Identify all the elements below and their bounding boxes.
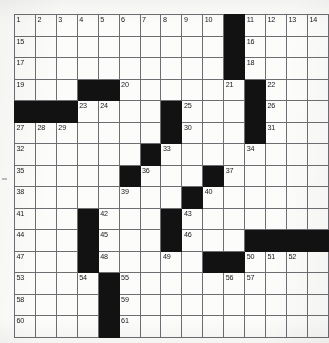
letter-cell[interactable] [119, 36, 140, 58]
letter-cell[interactable] [307, 316, 328, 338]
letter-cell[interactable]: 47 [15, 251, 36, 273]
letter-cell[interactable]: 26 [266, 101, 287, 123]
letter-cell[interactable]: 27 [15, 122, 36, 144]
letter-cell[interactable] [77, 144, 98, 166]
letter-cell[interactable] [286, 101, 307, 123]
letter-cell[interactable] [245, 187, 266, 209]
letter-cell[interactable] [307, 122, 328, 144]
letter-cell[interactable] [119, 144, 140, 166]
letter-cell[interactable]: 32 [15, 144, 36, 166]
letter-cell[interactable]: 52 [286, 251, 307, 273]
letter-cell[interactable] [266, 294, 287, 316]
letter-cell[interactable]: 40 [203, 187, 224, 209]
letter-cell[interactable] [286, 79, 307, 101]
letter-cell[interactable]: 5 [98, 15, 119, 37]
letter-cell[interactable] [203, 144, 224, 166]
letter-cell[interactable] [35, 58, 56, 80]
letter-cell[interactable] [56, 144, 77, 166]
letter-cell[interactable] [224, 294, 245, 316]
letter-cell[interactable]: 50 [245, 251, 266, 273]
letter-cell[interactable] [161, 36, 182, 58]
letter-cell[interactable] [203, 294, 224, 316]
letter-cell[interactable] [161, 79, 182, 101]
letter-cell[interactable] [56, 251, 77, 273]
letter-cell[interactable] [307, 165, 328, 187]
letter-cell[interactable]: 55 [119, 273, 140, 295]
letter-cell[interactable] [35, 144, 56, 166]
crossword-grid[interactable]: 1234567891011121314151617181920212223242… [14, 14, 329, 338]
letter-cell[interactable]: 46 [182, 230, 203, 252]
letter-cell[interactable]: 6 [119, 15, 140, 37]
letter-cell[interactable]: 58 [15, 294, 36, 316]
letter-cell[interactable] [245, 316, 266, 338]
letter-cell[interactable] [266, 36, 287, 58]
letter-cell[interactable] [182, 251, 203, 273]
letter-cell[interactable] [56, 165, 77, 187]
letter-cell[interactable] [307, 36, 328, 58]
letter-cell[interactable] [98, 58, 119, 80]
letter-cell[interactable] [161, 58, 182, 80]
letter-cell[interactable] [119, 58, 140, 80]
letter-cell[interactable] [224, 144, 245, 166]
letter-cell[interactable] [286, 36, 307, 58]
letter-cell[interactable] [35, 251, 56, 273]
letter-cell[interactable] [119, 208, 140, 230]
letter-cell[interactable] [140, 36, 161, 58]
letter-cell[interactable] [35, 208, 56, 230]
letter-cell[interactable] [35, 36, 56, 58]
letter-cell[interactable]: 43 [182, 208, 203, 230]
letter-cell[interactable] [161, 294, 182, 316]
letter-cell[interactable] [98, 122, 119, 144]
letter-cell[interactable] [286, 122, 307, 144]
letter-cell[interactable]: 41 [15, 208, 36, 230]
letter-cell[interactable] [307, 58, 328, 80]
letter-cell[interactable] [119, 122, 140, 144]
letter-cell[interactable] [203, 58, 224, 80]
letter-cell[interactable]: 39 [119, 187, 140, 209]
letter-cell[interactable] [286, 187, 307, 209]
letter-cell[interactable] [35, 273, 56, 295]
letter-cell[interactable] [56, 208, 77, 230]
letter-cell[interactable]: 25 [182, 101, 203, 123]
letter-cell[interactable]: 35 [15, 165, 36, 187]
letter-cell[interactable]: 57 [245, 273, 266, 295]
letter-cell[interactable] [56, 230, 77, 252]
letter-cell[interactable]: 13 [286, 15, 307, 37]
letter-cell[interactable] [245, 294, 266, 316]
letter-cell[interactable]: 60 [15, 316, 36, 338]
letter-cell[interactable] [224, 316, 245, 338]
letter-cell[interactable] [307, 144, 328, 166]
letter-cell[interactable] [56, 273, 77, 295]
letter-cell[interactable] [203, 208, 224, 230]
letter-cell[interactable] [77, 58, 98, 80]
letter-cell[interactable]: 4 [77, 15, 98, 37]
letter-cell[interactable] [140, 101, 161, 123]
letter-cell[interactable] [98, 36, 119, 58]
letter-cell[interactable] [77, 36, 98, 58]
letter-cell[interactable]: 54 [77, 273, 98, 295]
letter-cell[interactable] [77, 122, 98, 144]
letter-cell[interactable] [307, 273, 328, 295]
letter-cell[interactable] [182, 316, 203, 338]
letter-cell[interactable] [286, 273, 307, 295]
letter-cell[interactable] [56, 294, 77, 316]
letter-cell[interactable] [224, 101, 245, 123]
letter-cell[interactable]: 44 [15, 230, 36, 252]
letter-cell[interactable] [140, 122, 161, 144]
letter-cell[interactable] [77, 165, 98, 187]
letter-cell[interactable]: 34 [245, 144, 266, 166]
letter-cell[interactable]: 2 [35, 15, 56, 37]
letter-cell[interactable]: 1 [15, 15, 36, 37]
letter-cell[interactable]: 24 [98, 101, 119, 123]
letter-cell[interactable]: 22 [266, 79, 287, 101]
letter-cell[interactable] [182, 294, 203, 316]
letter-cell[interactable] [98, 165, 119, 187]
letter-cell[interactable] [266, 58, 287, 80]
letter-cell[interactable]: 49 [161, 251, 182, 273]
letter-cell[interactable] [140, 79, 161, 101]
letter-cell[interactable] [307, 101, 328, 123]
letter-cell[interactable]: 48 [98, 251, 119, 273]
letter-cell[interactable]: 37 [224, 165, 245, 187]
letter-cell[interactable]: 11 [245, 15, 266, 37]
letter-cell[interactable] [307, 208, 328, 230]
